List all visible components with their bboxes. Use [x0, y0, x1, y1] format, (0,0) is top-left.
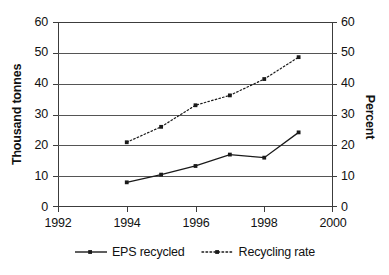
x-axis-tick: [58, 207, 59, 212]
x-axis-tick-label: 1996: [173, 216, 219, 230]
series-line-eps-recycled: [127, 132, 299, 182]
y-axis-left-tick-label: 40: [22, 76, 48, 90]
series-canvas: [58, 22, 333, 207]
chart-figure: Thousand tonnes Percent 60 50 40 30 20 1…: [0, 0, 389, 275]
chart-legend: EPS recycled Recycling rate: [0, 245, 389, 259]
y-axis-left-tick-label: 20: [22, 138, 48, 152]
x-axis-tick: [127, 207, 128, 212]
x-axis-tick: [264, 207, 265, 212]
x-axis-tick: [196, 207, 197, 212]
y-axis-left-tick-label: 0: [22, 200, 48, 214]
series-markers-eps-recycled: [125, 130, 301, 184]
y-axis-right-tick-label: 50: [341, 45, 367, 59]
y-axis-left-tick-label: 10: [22, 169, 48, 183]
y-axis-right-tick-label: 30: [341, 107, 367, 121]
y-axis-left-tick-label: 60: [22, 15, 48, 29]
x-axis-tick-label: 1994: [104, 216, 150, 230]
y-axis-right-tick-label: 40: [341, 76, 367, 90]
y-axis-right-tick-label: 10: [341, 169, 367, 183]
x-axis-tick-label: 2000: [310, 216, 356, 230]
legend-label: Recycling rate: [239, 245, 315, 259]
legend-entry-recycling-rate: Recycling rate: [201, 245, 315, 259]
legend-entry-eps-recycled: EPS recycled: [74, 245, 185, 259]
legend-swatch-dotted-line-icon: [201, 247, 235, 257]
series-line-recycling-rate: [127, 57, 299, 142]
x-axis-tick: [332, 207, 333, 212]
x-axis-tick-label: 1992: [35, 216, 81, 230]
plot-area: [58, 22, 333, 207]
y-axis-left-tick-label: 50: [22, 45, 48, 59]
y-axis-left-tick-label: 30: [22, 107, 48, 121]
y-axis-right-tick-label: 60: [341, 15, 367, 29]
y-axis-right-tick-label: 0: [341, 200, 367, 214]
legend-swatch-solid-line-icon: [74, 247, 108, 257]
legend-label: EPS recycled: [112, 245, 185, 259]
x-axis-tick-label: 1998: [241, 216, 287, 230]
y-axis-right-tick-label: 20: [341, 138, 367, 152]
